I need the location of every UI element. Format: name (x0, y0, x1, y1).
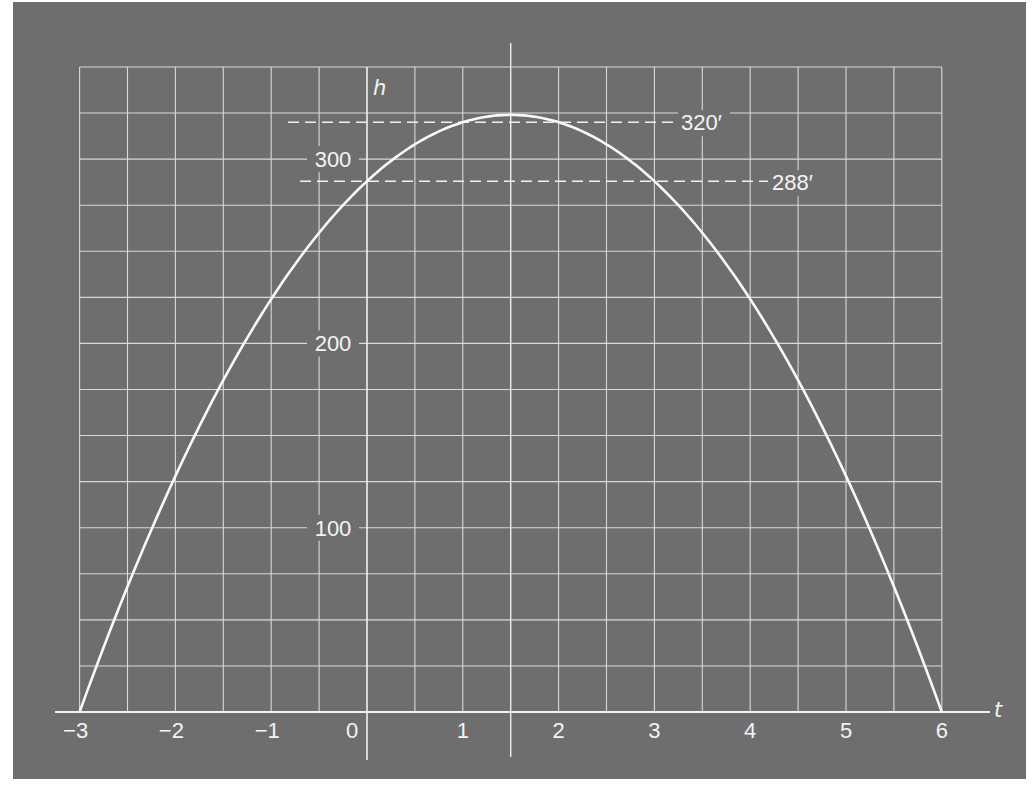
x-tick-labels: −3−2−10123456 (63, 718, 948, 743)
x-tick-label: 4 (744, 718, 756, 743)
height-annotation-288: 288′ (772, 170, 813, 195)
x-tick-label: −3 (63, 718, 88, 743)
annotation-labels: 320′288′ (678, 110, 821, 196)
x-tick-label: 1 (457, 718, 469, 743)
x-tick-label: 3 (648, 718, 660, 743)
x-tick-label: 2 (552, 718, 564, 743)
x-axis-label: t (994, 698, 1003, 722)
y-tick-label: 200 (315, 331, 352, 356)
grid-lines (80, 43, 942, 757)
axes (55, 67, 990, 760)
x-tick-label: 6 (936, 718, 948, 743)
x-tick-label: 0 (346, 718, 358, 743)
x-tick-label: 5 (840, 718, 852, 743)
parabola-chart: −3−2−10123456 100200300 320′288′ t h (0, 0, 1035, 786)
y-tick-label: 100 (315, 516, 352, 541)
height-annotation-320: 320′ (681, 110, 722, 135)
y-tick-label: 300 (315, 147, 352, 172)
x-tick-label: −1 (255, 718, 280, 743)
x-tick-label: −2 (159, 718, 184, 743)
y-axis-label: h (373, 76, 386, 100)
